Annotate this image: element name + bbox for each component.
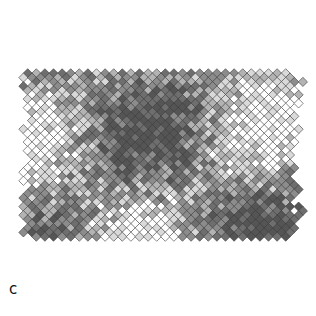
tile-grid bbox=[19, 69, 308, 242]
tile bbox=[19, 176, 28, 185]
tile bbox=[298, 77, 307, 86]
panel-label: c bbox=[9, 282, 17, 297]
diamond-tiling-figure bbox=[0, 0, 316, 316]
